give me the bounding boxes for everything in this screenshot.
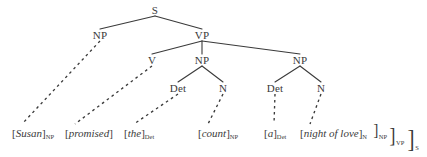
bracket-glyph: ]: [390, 123, 396, 148]
closing-bracket-layer: ]NP]VP]S: [0, 0, 427, 157]
bracket-subscript: S: [415, 144, 419, 151]
bracket-glyph: ]: [408, 125, 415, 153]
close-np: ]NP: [373, 121, 387, 141]
bracket-glyph: ]: [373, 121, 378, 141]
close-vp: ]VP: [389, 123, 405, 148]
close-s: ]S: [407, 125, 419, 153]
bracket-subscript: NP: [379, 133, 388, 140]
syntactic-tree-diagram: SNPVPVNPNPDetNDetN [Susan]NP[promised][t…: [0, 0, 427, 157]
bracket-subscript: VP: [396, 139, 405, 146]
